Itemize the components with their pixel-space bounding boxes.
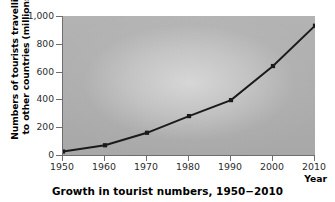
y-tick-label: 200 [8,122,54,132]
data-point-marker [271,64,275,68]
x-tick-label: 1950 [38,161,86,172]
y-tick-label: 1,000 [8,11,54,21]
plot-area [62,16,315,156]
y-tick-mark [56,16,62,17]
x-tick-label: 2000 [248,161,296,172]
data-point-marker [145,131,149,135]
y-tick-label: 0 [8,150,54,160]
data-point-marker [187,114,191,118]
x-tick-label: 1990 [206,161,254,172]
data-point-marker [313,24,315,28]
chart-caption: Growth in tourist numbers, 1950−2010 [0,185,335,197]
data-point-marker [103,143,107,147]
y-tick-mark [56,99,62,100]
tourist-numbers-markers [63,24,315,154]
x-tick-label: 1970 [122,161,170,172]
data-point-marker [63,149,65,153]
x-axis-title: Year [304,173,327,184]
y-tick-mark [56,127,62,128]
data-point-marker [229,98,233,102]
y-tick-mark [56,72,62,73]
x-tick-label: 1980 [164,161,212,172]
y-tick-label: 400 [8,94,54,104]
x-tick-label: 1960 [80,161,128,172]
y-tick-label: 800 [8,39,54,49]
y-tick-label: 600 [8,67,54,77]
x-tick-label: 2010 [290,161,335,172]
line-series-svg [63,16,315,155]
tourist-numbers-line [63,26,315,152]
y-tick-mark [56,44,62,45]
chart-figure: Numbers of tourists travelling to other … [0,0,335,202]
